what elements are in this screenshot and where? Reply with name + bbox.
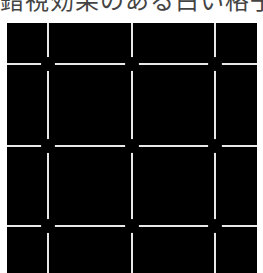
intersection-dot: [41, 139, 55, 153]
intersection-dot: [41, 57, 55, 71]
intersection-dot: [125, 219, 139, 233]
intersection-dot: [125, 57, 139, 71]
intersection-dot: [208, 219, 222, 233]
intersection-dot: [125, 139, 139, 153]
illusion-grid: [7, 23, 257, 273]
intersection-dot: [208, 57, 222, 71]
intersection-dot: [208, 139, 222, 153]
intersection-dot: [41, 219, 55, 233]
cropped-caption-text: 錯視効果のある白い格子図: [0, 0, 263, 14]
